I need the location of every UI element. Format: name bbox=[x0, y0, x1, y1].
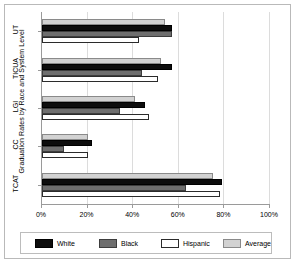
x-tick-label-0%: 0% bbox=[36, 211, 46, 218]
x-tick-label-100%: 100% bbox=[260, 211, 278, 218]
x-axis-line bbox=[41, 204, 269, 205]
legend-item-black[interactable]: Black bbox=[99, 238, 138, 249]
gridline-100% bbox=[269, 12, 270, 204]
x-tick-label-20%: 20% bbox=[80, 211, 94, 218]
y-axis-title: Graduation Rates by Race and System Leve… bbox=[18, 7, 25, 197]
legend-swatch-hispanic bbox=[161, 239, 179, 248]
x-tick-label-60%: 60% bbox=[171, 211, 185, 218]
category-label-UT: UT bbox=[12, 13, 19, 47]
chart-legend: WhiteBlackHispanicAverage bbox=[20, 232, 272, 254]
legend-swatch-black bbox=[99, 239, 117, 248]
bar-group-UT: UT bbox=[42, 12, 269, 50]
bar-TICUA-hispanic bbox=[42, 76, 158, 82]
bar-UT-hispanic bbox=[42, 37, 139, 43]
bar-group-TICUA: TICUA bbox=[42, 50, 269, 88]
x-tick-40% bbox=[132, 204, 133, 208]
bar-group-LGI: LGI bbox=[42, 89, 269, 127]
legend-swatch-average bbox=[223, 239, 241, 248]
x-tick-label-40%: 40% bbox=[125, 211, 139, 218]
x-tick-80% bbox=[223, 204, 224, 208]
category-label-TCAT: TCAT bbox=[12, 166, 19, 200]
x-tick-20% bbox=[87, 204, 88, 208]
bar-CC-hispanic bbox=[42, 152, 88, 158]
bar-LGI-hispanic bbox=[42, 114, 149, 120]
x-tick-label-80%: 80% bbox=[216, 211, 230, 218]
x-tick-60% bbox=[178, 204, 179, 208]
x-tick-100% bbox=[269, 204, 270, 208]
legend-label-hispanic: Hispanic bbox=[183, 240, 210, 247]
chart-figure: Graduation Rates by Race and System Leve… bbox=[0, 0, 296, 264]
x-tick-0% bbox=[41, 204, 42, 208]
bar-group-TCAT: TCAT bbox=[42, 166, 269, 204]
legend-item-hispanic[interactable]: Hispanic bbox=[161, 238, 210, 249]
legend-item-white[interactable]: White bbox=[35, 238, 75, 249]
bar-group-CC: CC bbox=[42, 127, 269, 165]
legend-swatch-white bbox=[35, 239, 53, 248]
legend-label-average: Average bbox=[245, 240, 271, 247]
bar-TCAT-hispanic bbox=[42, 191, 220, 197]
legend-item-average[interactable]: Average bbox=[223, 238, 271, 249]
category-label-LGI: LGI bbox=[12, 89, 19, 123]
plot-area: 0%20%40%60%80%100% UTTICUALGICCTCAT bbox=[41, 12, 269, 204]
legend-label-black: Black bbox=[121, 240, 138, 247]
category-label-TICUA: TICUA bbox=[12, 51, 19, 85]
category-label-CC: CC bbox=[12, 128, 19, 162]
legend-label-white: White bbox=[57, 240, 75, 247]
